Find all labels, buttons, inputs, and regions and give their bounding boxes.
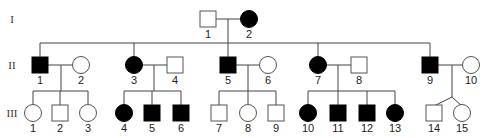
individual-number: 8 — [356, 74, 362, 86]
individual-number: 1 — [30, 122, 36, 134]
generation-label: I — [10, 13, 14, 25]
individual-number: 5 — [225, 74, 231, 86]
female-unaffected-circle-icon — [260, 57, 277, 74]
individual-number: 2 — [246, 28, 252, 40]
male-unaffected-square-icon — [426, 105, 442, 121]
pedigree-chart: IIIIII 121234567891012345678910111213141… — [0, 0, 487, 138]
female-unaffected-circle-icon — [240, 105, 257, 122]
individual-number: 2 — [78, 74, 84, 86]
individual-number: 5 — [149, 122, 155, 134]
individual-number: 11 — [332, 122, 343, 134]
generation-label: III — [7, 107, 18, 119]
individual-number: 6 — [265, 74, 271, 86]
individual-number: 6 — [178, 122, 184, 134]
individual-number: 8 — [245, 122, 251, 134]
individual-number: 7 — [216, 122, 222, 134]
male-unaffected-square-icon — [211, 105, 227, 121]
male-affected-square-icon — [422, 57, 438, 73]
male-unaffected-square-icon — [52, 105, 68, 121]
male-affected-square-icon — [330, 105, 346, 121]
female-unaffected-circle-icon — [454, 105, 471, 122]
male-unaffected-square-icon — [351, 57, 367, 73]
female-unaffected-circle-icon — [25, 105, 42, 122]
female-unaffected-circle-icon — [80, 105, 97, 122]
individual-number: 3 — [131, 74, 137, 86]
female-affected-circle-icon — [300, 105, 317, 122]
individual-number: 14 — [428, 122, 440, 134]
male-affected-square-icon — [144, 105, 160, 121]
female-unaffected-circle-icon — [73, 57, 90, 74]
female-affected-circle-icon — [241, 11, 258, 28]
male-affected-square-icon — [359, 105, 375, 121]
female-affected-circle-icon — [310, 57, 327, 74]
male-unaffected-square-icon — [200, 11, 216, 27]
male-affected-square-icon — [32, 57, 48, 73]
male-affected-square-icon — [173, 105, 189, 121]
individual-number: 10 — [302, 122, 314, 134]
individual-number: 12 — [361, 122, 373, 134]
male-unaffected-square-icon — [167, 57, 183, 73]
individual-number: 7 — [315, 74, 321, 86]
individual-number: 2 — [57, 122, 63, 134]
female-affected-circle-icon — [126, 57, 143, 74]
generation-labels: IIIIII — [7, 13, 18, 119]
individual-number: 10 — [465, 74, 477, 86]
individual-number: 1 — [37, 74, 43, 86]
female-unaffected-circle-icon — [463, 57, 480, 74]
individual-number: 15 — [456, 122, 468, 134]
individual-number: 9 — [427, 74, 433, 86]
individual-number: 4 — [121, 122, 127, 134]
generation-label: II — [8, 59, 16, 71]
individual-number: 4 — [172, 74, 178, 86]
female-affected-circle-icon — [387, 105, 404, 122]
male-unaffected-square-icon — [268, 105, 284, 121]
individual-number: 1 — [205, 28, 211, 40]
female-affected-circle-icon — [116, 105, 133, 122]
individual-number: 3 — [85, 122, 91, 134]
individual-number: 13 — [389, 122, 401, 134]
individual-number: 9 — [273, 122, 279, 134]
male-affected-square-icon — [220, 57, 236, 73]
